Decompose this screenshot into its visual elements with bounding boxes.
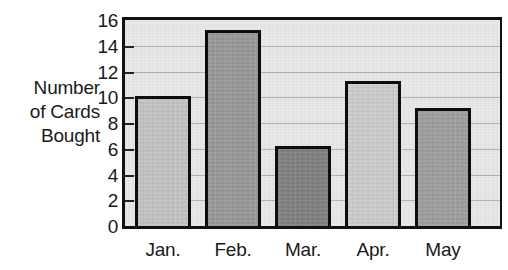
y-axis-tick-label: 16 <box>96 11 118 30</box>
x-axis-tick-label: May <box>407 238 479 262</box>
bar <box>345 81 401 229</box>
bar-texture <box>138 99 188 229</box>
x-axis-tick-label: Jan. <box>127 238 199 262</box>
bar-texture <box>278 149 328 229</box>
x-axis-tick-label: Apr. <box>337 238 409 262</box>
bar-chart-figure: Number of Cards Bought 0246810121416 Jan… <box>0 0 508 270</box>
y-axis-title-line-2: of Cards <box>0 100 100 124</box>
x-axis-tick-label: Feb. <box>197 238 269 262</box>
y-axis-tick-label: 8 <box>96 114 118 133</box>
bar <box>135 96 191 229</box>
y-axis-tick-mark <box>125 46 134 48</box>
bar-texture <box>418 111 468 229</box>
bar-texture <box>348 84 398 229</box>
gridline <box>125 72 500 73</box>
y-axis-title-line-1: Number <box>0 76 100 100</box>
gridline <box>125 46 500 47</box>
y-axis-title-line-3: Bought <box>0 124 100 148</box>
x-axis-tick-label: Mar. <box>267 238 339 262</box>
plot-area <box>122 17 502 229</box>
y-axis-tick-label: 12 <box>96 63 118 82</box>
y-axis-tick-mark <box>125 123 134 125</box>
bar-texture <box>208 33 258 229</box>
y-axis-title: Number of Cards Bought <box>0 76 100 148</box>
y-axis-tick-mark <box>125 175 134 177</box>
y-axis-tick-mark <box>125 149 134 151</box>
bar <box>205 30 261 229</box>
y-axis-tick-label: 6 <box>96 140 118 159</box>
y-axis-tick-mark <box>125 97 134 99</box>
bar <box>415 108 471 229</box>
y-axis-tick-label: 14 <box>96 37 118 56</box>
bar <box>275 146 331 229</box>
y-axis-tick-mark <box>125 200 134 202</box>
y-axis-tick-labels: 0246810121416 <box>96 8 118 236</box>
x-axis-tick-labels: Jan.Feb.Mar.Apr.May <box>122 238 502 268</box>
y-axis-tick-label: 4 <box>96 166 118 185</box>
y-axis-tick-label: 2 <box>96 191 118 210</box>
y-axis-tick-label: 0 <box>96 217 118 236</box>
y-axis-tick-label: 10 <box>96 88 118 107</box>
y-axis-tick-mark <box>125 72 134 74</box>
